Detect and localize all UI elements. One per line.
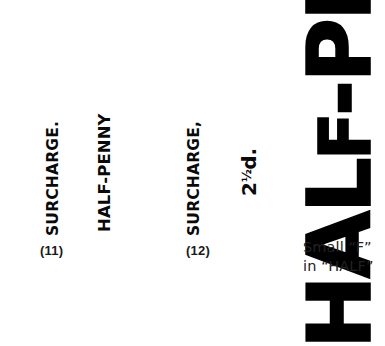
value-suffix-pence: d. [237, 148, 261, 170]
figure-number-11: (11) [40, 243, 63, 258]
specimen-overprint-surcharge-fig12: SURCHARGE, [185, 121, 203, 236]
specimen-overprint-surcharge-fig11: SURCHARGE. [44, 121, 62, 236]
enlargement-caption-line-1: Small “F” [303, 238, 385, 257]
enlargement-caption-line-2: in “HALF” [303, 257, 385, 276]
value-fraction-half: ½ [239, 170, 254, 182]
figure-number-12: (12) [186, 243, 210, 258]
specimen-overprint-half-penny-fig11: HALF-PENNY [95, 113, 114, 232]
enlargement-text-suffix: -PE [288, 0, 385, 116]
enlarged-overprint-detail: HALF-PE [300, 0, 379, 346]
specimen-overprint-value-fig12: 2½d. [237, 148, 261, 196]
enlargement-small-f-letter: F [305, 116, 385, 160]
enlargement-caption: Small “F” in “HALF” [303, 238, 385, 276]
value-digit: 2 [237, 182, 261, 196]
